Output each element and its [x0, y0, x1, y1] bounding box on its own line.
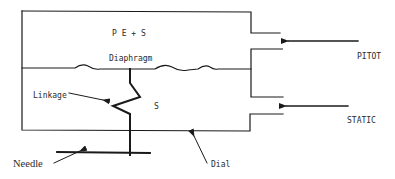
linkage-spring [113, 69, 140, 155]
linkage-label: Linkage [33, 92, 67, 100]
lower-chamber-label: S [154, 103, 159, 111]
linkage-pointer [69, 93, 103, 100]
case-outline [22, 11, 283, 131]
diagram-lines [0, 0, 395, 179]
dial-label: Dial [211, 161, 230, 169]
dial-pointer [194, 136, 207, 163]
diaphragm-line [22, 65, 251, 71]
pitot-label: PITOT [357, 53, 381, 61]
static-label: STATIC [347, 117, 376, 125]
diaphragm-label: Diaphragm [109, 55, 152, 63]
needle-bar [57, 152, 150, 153]
airspeed-indicator-diagram: P E + S Diaphragm S Linkage PITOT STATIC… [0, 0, 395, 179]
needle-label: Needle [13, 159, 43, 170]
upper-chamber-label: P E + S [112, 30, 146, 38]
